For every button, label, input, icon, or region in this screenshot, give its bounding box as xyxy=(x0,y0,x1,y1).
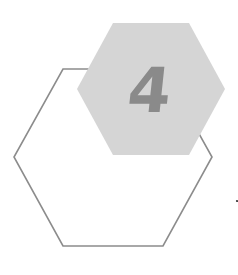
hexagon-graphic xyxy=(0,0,238,275)
number-label: 4 xyxy=(125,60,174,122)
dot xyxy=(236,200,238,202)
